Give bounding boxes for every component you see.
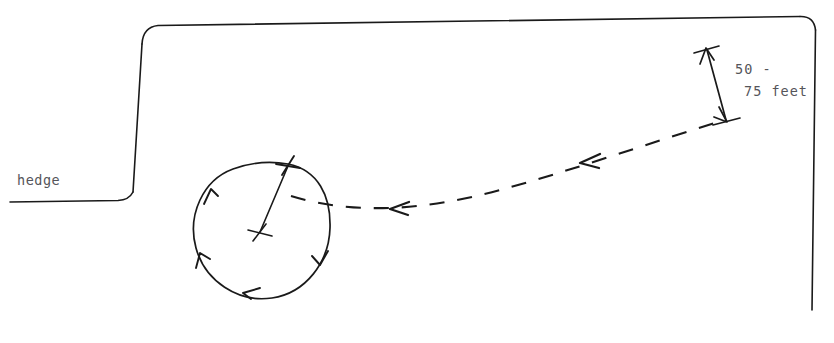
dimension-arrow (700, 48, 727, 122)
radius-line (260, 166, 288, 232)
circle-direction-arrows (196, 189, 328, 299)
hedge-boundary-line (10, 16, 816, 310)
diagram-canvas: hedge 50 -75 feet (0, 0, 834, 343)
approach-direction-arrows (390, 154, 600, 215)
hedge-label: hedge (17, 172, 60, 188)
distance-label-line-1: 50 - (735, 61, 772, 77)
dashed-approach-path (291, 120, 724, 208)
circle-center-mark (248, 224, 272, 241)
distance-label-line-2: 75 feet (735, 80, 808, 102)
distance-label: 50 -75 feet (735, 58, 808, 102)
dimension-top-mark (694, 46, 719, 53)
diagram-vector-layer (0, 0, 834, 343)
